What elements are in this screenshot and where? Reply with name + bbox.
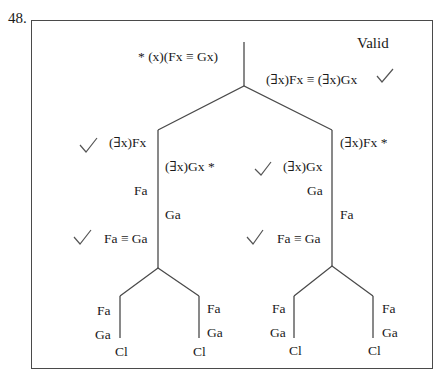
negated-conclusion: (∃x)Fx ≡ (∃x)Gx: [266, 73, 357, 87]
right-line1: (∃x)Fx *: [340, 136, 387, 150]
right-line2: (∃x)Gx: [283, 160, 323, 174]
rr-leaf-b: Ga: [382, 326, 398, 340]
rl-leaf-close: Cl: [289, 344, 302, 358]
ll-leaf-b: Ga: [95, 328, 111, 342]
left-line5: Fa ≡ Ga: [104, 232, 148, 246]
premise: * (x)(Fx ≡ Gx): [138, 50, 218, 64]
lr-leaf-a: Fa: [207, 302, 221, 316]
ll-leaf-close: Cl: [115, 345, 128, 359]
rr-leaf-close: Cl: [368, 344, 381, 358]
left-line4: Ga: [165, 208, 181, 222]
right-line3: Ga: [307, 184, 323, 198]
right-line4: Fa: [340, 208, 354, 222]
lr-leaf-close: Cl: [193, 345, 206, 359]
rl-leaf-b: Ga: [270, 326, 286, 340]
ll-leaf-a: Fa: [97, 304, 111, 318]
right-line5: Fa ≡ Ga: [277, 232, 321, 246]
left-line2: (∃x)Gx *: [165, 160, 215, 174]
left-line3: Fa: [134, 184, 148, 198]
rl-leaf-a: Fa: [272, 302, 286, 316]
rr-leaf-a: Fa: [382, 302, 396, 316]
tree-lines: [0, 0, 447, 383]
left-line1: (∃x)Fx: [109, 136, 146, 150]
verdict-label: Valid: [357, 36, 389, 51]
lr-leaf-b: Ga: [207, 326, 223, 340]
